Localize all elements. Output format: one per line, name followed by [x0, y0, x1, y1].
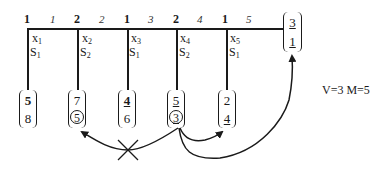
- crossed-arrow-to-column-2: [82, 128, 178, 150]
- arrow-to-result-bracket: [179, 56, 292, 158]
- arrow-to-column-5: [180, 128, 222, 141]
- arrows-overlay: [0, 0, 390, 172]
